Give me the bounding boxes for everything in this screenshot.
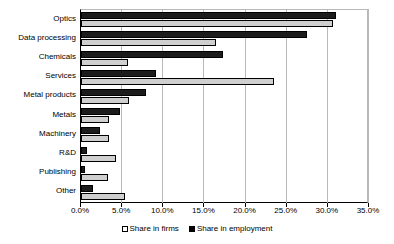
bar-share-in-firms [81,116,109,123]
bar-share-in-firms [81,59,128,66]
x-tick-label: 25.0% [266,206,306,216]
gridline [368,9,369,203]
category-label: Metal products [0,90,76,99]
bar-share-in-firms [81,20,333,27]
category-label: Metals [0,110,76,119]
bar-share-in-firms [81,193,125,200]
bar-share-in-firms [81,174,108,181]
x-tick-label: 15.0% [183,206,223,216]
chart-legend: Share in firmsShare in employment [0,223,394,234]
legend-swatch-icon [122,226,128,232]
bar-share-in-firms [81,135,109,142]
category-label: Publishing [0,167,76,176]
category-label: Machinery [0,129,76,138]
bar-share-in-employment [81,185,93,192]
bar-share-in-employment [81,12,336,19]
category-label: Chemicals [0,52,76,61]
category-label: Other [0,186,76,195]
legend-label: Share in firms [130,224,179,233]
bar-share-in-firms [81,155,116,162]
category-label: Data processing [0,33,76,42]
x-tick-label: 20.0% [225,206,265,216]
bar-share-in-firms [81,39,216,46]
x-tick-label: 35.0% [348,206,388,216]
category-label: R&D [0,148,76,157]
x-tick-label: 10.0% [142,206,182,216]
x-axis-tick-labels: 0.0%5.0%10.0%15.0%20.0%25.0%30.0%35.0% [0,206,394,218]
bars-layer [81,10,368,202]
bar-chart: OpticsData processingChemicalsServicesMe… [0,0,394,244]
bar-share-in-firms [81,78,274,85]
legend-label: Share in employment [197,224,273,233]
bar-share-in-employment [81,31,307,38]
bar-share-in-employment [81,51,223,58]
category-label: Optics [0,14,76,23]
category-axis-labels: OpticsData processingChemicalsServicesMe… [0,9,76,203]
bar-share-in-employment [81,70,156,77]
bar-share-in-employment [81,147,87,154]
x-tick-label: 5.0% [101,206,141,216]
bar-share-in-employment [81,108,120,115]
bar-share-in-employment [81,89,146,96]
bar-share-in-firms [81,97,129,104]
x-tick-label: 0.0% [60,206,100,216]
x-tick-label: 30.0% [307,206,347,216]
bar-share-in-employment [81,166,85,173]
legend-item: Share in employment [189,223,273,234]
legend-item: Share in firms [122,223,179,234]
category-label: Services [0,71,76,80]
legend-swatch-icon [189,226,195,232]
bar-share-in-employment [81,127,100,134]
